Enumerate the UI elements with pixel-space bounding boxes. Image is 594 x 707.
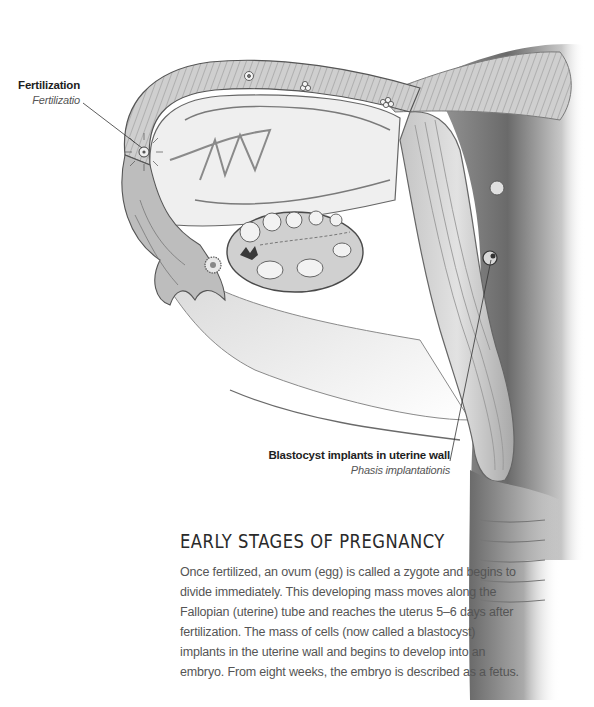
article: EARLY STAGES OF PREGNANCY Once fertilize… (180, 530, 520, 682)
article-title: EARLY STAGES OF PREGNANCY (180, 530, 472, 552)
implantation-label-latin: Phasis implantationis (200, 463, 450, 478)
fertilization-label-latin: Fertilizatio (0, 93, 80, 108)
fertilization-label: Fertilization Fertilizatio (0, 78, 80, 108)
blastocyst (483, 251, 497, 265)
implantation-label: Blastocyst implants in uterine wall Phas… (200, 448, 450, 478)
tube-lumen (150, 95, 400, 226)
article-body: Once fertilized, an ovum (egg) is called… (180, 562, 520, 682)
fertilization-label-main: Fertilization (0, 78, 80, 93)
fertilization-site (125, 133, 163, 171)
implantation-label-main: Blastocyst implants in uterine wall (200, 448, 450, 463)
